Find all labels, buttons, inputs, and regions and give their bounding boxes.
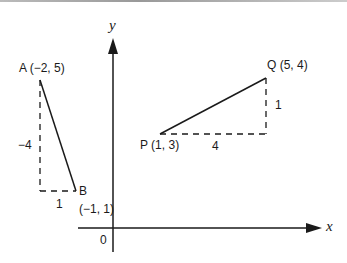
coordinate-plane: [0, 0, 347, 263]
pq-run-label: 4: [212, 140, 219, 152]
segment-pq: [160, 78, 266, 134]
point-b-label: B: [79, 185, 87, 197]
segment-ab: [40, 80, 76, 191]
origin-label: 0: [100, 234, 107, 246]
x-axis-label: x: [326, 219, 333, 234]
y-axis-arrow-icon: [108, 38, 118, 54]
ab-rise-label: −4: [18, 139, 32, 151]
point-p-label: P (1, 3): [140, 139, 179, 151]
point-q-label: Q (5, 4): [267, 59, 308, 71]
pq-rise-label: 1: [275, 99, 282, 111]
x-axis-arrow-icon: [306, 223, 322, 233]
point-a-label: A (−2, 5): [19, 62, 65, 74]
point-b-coord-label: (−1, 1): [79, 203, 114, 215]
y-axis-label: y: [109, 18, 116, 33]
ab-run-label: 1: [56, 198, 63, 210]
